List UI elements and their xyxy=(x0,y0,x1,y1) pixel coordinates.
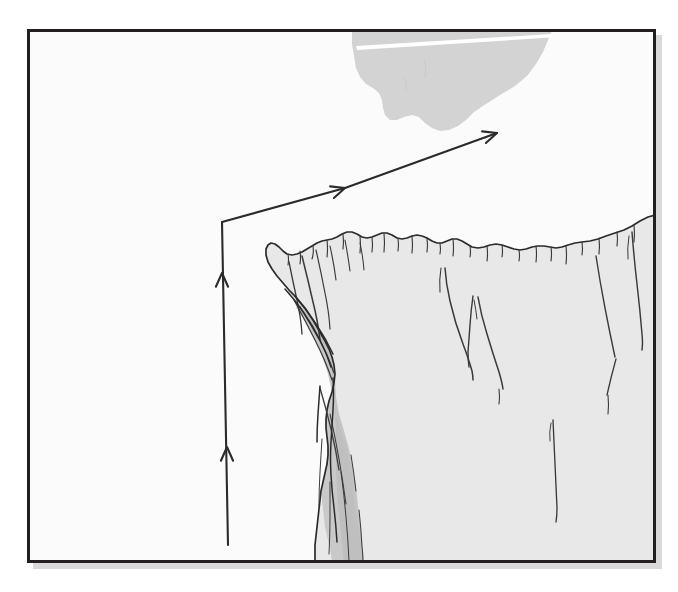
illustration-stage: Cliff edge cross-section with ascent and… xyxy=(0,0,678,592)
cliff-illustration-svg xyxy=(0,0,678,592)
